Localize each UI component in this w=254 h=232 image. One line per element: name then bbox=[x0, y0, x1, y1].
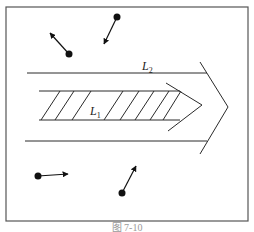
particle-dot-icon bbox=[66, 51, 73, 58]
label-l2: L2 bbox=[141, 59, 153, 75]
figure-caption: 图 7-10 bbox=[112, 222, 143, 232]
particle-dot-icon bbox=[119, 190, 126, 197]
hatch-lines bbox=[41, 91, 181, 120]
inner-arrow-l1 bbox=[39, 83, 202, 131]
particle-dot-icon bbox=[35, 173, 42, 180]
beam-diagram: L2 L1 图 7-10 bbox=[0, 0, 254, 232]
particle-3 bbox=[35, 173, 69, 180]
particle-dot-icon bbox=[114, 14, 121, 21]
outer-arrow-head-icon bbox=[200, 62, 228, 154]
label-l1: L1 bbox=[89, 104, 101, 120]
particle-1 bbox=[50, 33, 73, 58]
particle-4 bbox=[119, 166, 137, 197]
diagram-frame bbox=[6, 7, 248, 221]
particle-2 bbox=[104, 14, 121, 45]
